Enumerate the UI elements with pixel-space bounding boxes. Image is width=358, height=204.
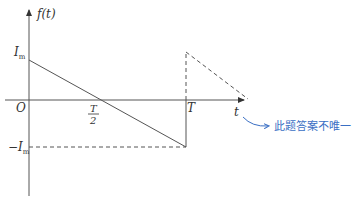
half-period-denominator: 2: [89, 115, 96, 126]
solid-ramp-line: [29, 60, 186, 147]
annotation-text: 此题答案不唯一: [274, 119, 351, 133]
neg-amplitude-label: −Im: [8, 140, 30, 156]
dashed-ramp-line: [186, 52, 248, 99]
period-label: T: [187, 101, 196, 115]
curved-arrow-icon: [243, 117, 268, 126]
y-axis-label: f(t): [36, 7, 56, 21]
origin-label: O: [16, 101, 26, 115]
pos-amplitude-label: Im: [13, 45, 26, 61]
half-period-numerator: T: [90, 103, 98, 114]
waveform-diagram: f(t) t O Im −Im T 2 T 此题答案不唯一: [0, 0, 358, 204]
x-axis-label: t: [234, 105, 239, 119]
